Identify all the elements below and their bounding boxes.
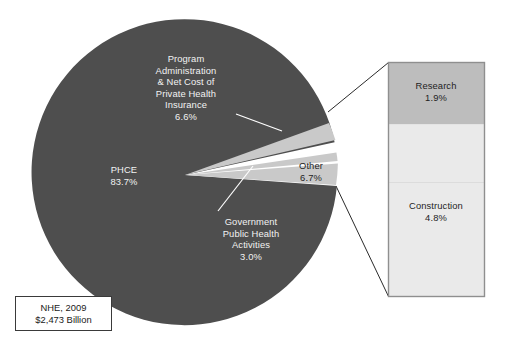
nhe-amount-line: $2,473 Billion [35, 314, 91, 326]
callout-segment-research[interactable] [389, 63, 485, 125]
chart-canvas: Program Administration & Net Cost of Pri… [0, 0, 508, 363]
callout-connector-lines [328, 63, 389, 297]
nhe-year-line: NHE, 2009 [41, 302, 87, 314]
callout-segment-construction[interactable] [389, 125, 485, 297]
nhe-annotation-box: NHE, 2009 $2,473 Billion [15, 296, 112, 331]
